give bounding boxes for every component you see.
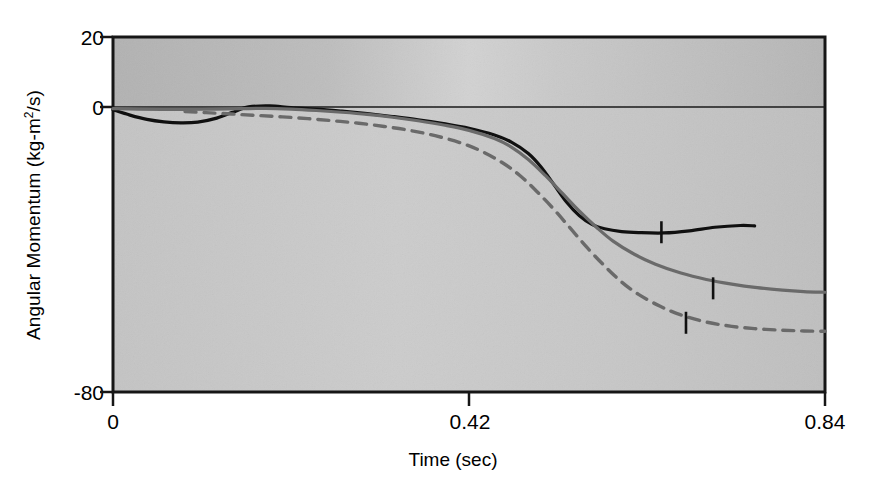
plot-canvas	[0, 0, 870, 487]
chart-figure: Angular Momentum (kg-m2/s) 20 0 -80 0 0.…	[0, 0, 870, 487]
paper-grain-overlay	[113, 37, 825, 392]
